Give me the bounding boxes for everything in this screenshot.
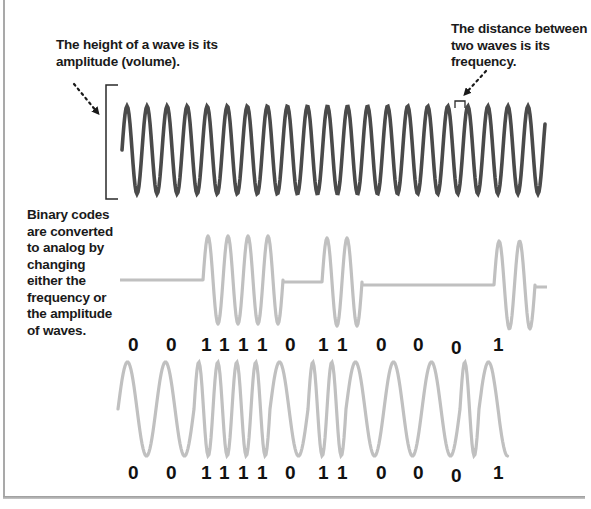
lower-bit-11: 0 [451,465,462,487]
frequency-modulated-wave [118,362,508,456]
lower-bit-4: 1 [238,462,249,484]
upper-bit-12: 1 [493,334,504,356]
upper-bit-3: 1 [219,334,230,356]
upper-bit-0: 0 [128,334,139,356]
upper-bit-5: 1 [257,334,268,356]
upper-bit-6: 0 [285,334,296,356]
lower-bit-1: 0 [166,462,177,484]
binary-labels-lower: 0011110110001 [0,462,585,486]
lower-bit-3: 1 [219,462,230,484]
amplitude-arrow-icon [74,84,97,112]
upper-bit-1: 0 [166,334,177,356]
upper-bit-4: 1 [238,334,249,356]
lower-bit-12: 1 [493,462,504,484]
lower-bit-2: 1 [201,462,212,484]
upper-bit-9: 0 [376,334,387,356]
lower-bit-7: 1 [318,462,329,484]
lower-bit-5: 1 [257,462,268,484]
upper-bit-2: 1 [201,334,212,356]
upper-bit-7: 1 [318,334,329,356]
upper-bit-8: 1 [337,334,348,356]
lower-bit-0: 0 [128,462,139,484]
lower-bit-6: 0 [285,462,296,484]
upper-bit-10: 0 [413,334,424,356]
binary-labels-upper: 0011110110001 [0,334,585,358]
amplitude-modulated-wave [120,236,547,329]
frequency-bracket [455,101,465,108]
lower-bit-9: 0 [376,462,387,484]
carrier-wave [122,106,545,194]
lower-bit-8: 1 [337,462,348,484]
amplitude-bracket [106,85,118,199]
lower-bit-10: 0 [413,462,424,484]
frequency-arrow-icon [466,71,486,93]
upper-bit-11: 0 [451,337,462,359]
